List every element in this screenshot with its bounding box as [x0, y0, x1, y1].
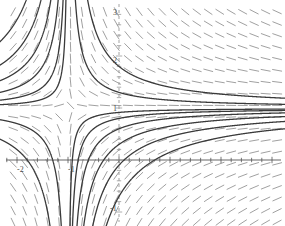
slope-segment: [250, 21, 259, 25]
slope-segment: [215, 174, 224, 178]
slope-segment: [158, 161, 167, 166]
slope-segment: [238, 174, 247, 178]
slope-segment: [33, 148, 39, 156]
slope-segment: [192, 33, 201, 38]
slope-segment: [238, 208, 247, 213]
slope-segment: [125, 31, 131, 39]
slope-segment: [170, 196, 178, 203]
slope-segment: [169, 93, 179, 94]
slope-segment: [203, 117, 213, 118]
slope-segment: [169, 128, 179, 130]
slope-segment: [238, 57, 248, 60]
slope-segment: [215, 21, 224, 26]
slope-segment: [204, 219, 212, 225]
slope-segment: [249, 162, 259, 165]
slope-segment: [90, 137, 96, 145]
slope-segment: [193, 196, 201, 202]
slope-segment: [204, 208, 212, 214]
plot-canvas: [0, 0, 285, 226]
slope-segment: [238, 9, 247, 14]
slope-segment: [238, 197, 247, 202]
slope-segment: [180, 81, 190, 83]
slope-segment: [181, 185, 189, 191]
slope-segment: [272, 174, 282, 177]
slope-segment: [11, 206, 16, 215]
slope-segment: [249, 81, 259, 82]
slope-segment: [59, 7, 60, 17]
slope-segment: [9, 127, 18, 131]
slope-segment: [33, 54, 38, 62]
slope-segment: [227, 197, 236, 202]
slope-segment: [125, 8, 130, 16]
slope-segment: [193, 208, 201, 214]
slope-segment: [112, 80, 121, 85]
x-tick-label-1: -1: [68, 166, 75, 174]
slope-segment: [261, 45, 271, 48]
slope-segment: [192, 93, 202, 94]
slope-segment: [58, 171, 59, 181]
slope-segment: [226, 57, 236, 60]
slope-segment: [67, 102, 74, 109]
slope-segment: [46, 182, 49, 192]
slope-segment: [147, 32, 155, 39]
solution-curve: [0, 0, 36, 48]
slope-segment: [204, 185, 213, 190]
slope-segment: [101, 67, 108, 74]
slope-segment: [103, 194, 107, 203]
slope-segment: [34, 194, 37, 203]
slope-segment: [215, 196, 224, 201]
slope-segment: [124, 55, 132, 61]
slope-segment: [159, 219, 165, 226]
slope-segment: [192, 173, 201, 178]
slope-segment: [34, 160, 39, 169]
slope-segment: [159, 20, 166, 27]
slope-segment: [261, 185, 270, 189]
slope-segment: [10, 160, 17, 167]
slope-segment: [226, 128, 236, 129]
slope-segment: [77, 104, 87, 106]
slope-segment: [43, 115, 52, 119]
slope-segment: [215, 117, 225, 118]
slope-segment: [215, 33, 224, 37]
slope-segment: [249, 33, 258, 37]
y-tick-label-3: -1: [110, 205, 117, 213]
slope-segment: [134, 116, 144, 117]
slope-segment: [273, 10, 282, 14]
slope-segment: [58, 136, 61, 146]
slope-segment: [81, 217, 82, 226]
slope-segment: [181, 9, 189, 15]
slope-segment: [261, 220, 270, 225]
slope-segment: [249, 151, 259, 153]
slope-segment: [192, 128, 202, 130]
slope-segment: [170, 219, 177, 226]
slope-segment: [70, 89, 72, 99]
slope-segment: [147, 172, 155, 178]
slope-segment: [135, 80, 144, 83]
slope-segment: [227, 33, 236, 37]
slope-segment: [227, 208, 235, 213]
slope-segment: [158, 32, 166, 38]
slope-segment: [181, 162, 190, 166]
solution-curve: [0, 0, 55, 83]
slope-segment: [103, 19, 107, 28]
slope-segment: [10, 172, 16, 180]
slope-segment: [9, 80, 18, 84]
slope-segment: [148, 195, 155, 202]
slope-segment: [261, 69, 271, 71]
solution-curve: [0, 119, 63, 226]
slope-segment: [261, 140, 271, 142]
slope-segment: [136, 20, 142, 28]
slope-segment: [22, 183, 27, 192]
slope-segment: [158, 68, 167, 72]
slope-segment: [272, 151, 282, 153]
slope-segment: [137, 207, 143, 215]
slope-segment: [261, 57, 271, 59]
slope-segment: [70, 124, 71, 134]
slope-segment: [54, 104, 64, 107]
slope-segment: [182, 207, 190, 214]
slope-segment: [204, 45, 213, 49]
slope-segment: [272, 22, 281, 26]
slope-segment: [227, 220, 235, 226]
slope-segment: [158, 81, 168, 84]
slope-segment: [135, 138, 144, 142]
